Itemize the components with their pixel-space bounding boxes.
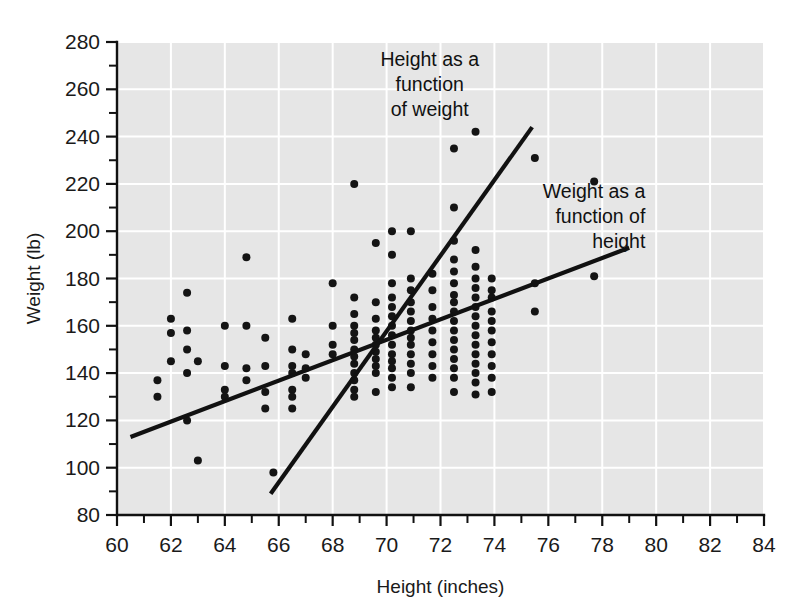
data-point: [407, 350, 415, 358]
data-point: [183, 345, 191, 353]
data-point: [450, 355, 458, 363]
data-point: [388, 364, 396, 372]
y-tick-label: 120: [65, 408, 100, 431]
scatter-chart: 60626466687072747678808284 8010012014016…: [0, 0, 806, 608]
x-tick-label: 74: [483, 533, 507, 556]
data-point: [388, 341, 396, 349]
data-point: [407, 308, 415, 316]
data-point: [472, 275, 480, 283]
x-tick-label: 62: [159, 533, 182, 556]
data-point: [288, 362, 296, 370]
data-point: [221, 362, 229, 370]
data-point: [194, 457, 202, 465]
x-tick-label: 82: [698, 533, 721, 556]
y-tick-label: 180: [65, 267, 100, 290]
data-point: [472, 369, 480, 377]
data-point: [407, 341, 415, 349]
data-point: [428, 350, 436, 358]
data-point: [288, 315, 296, 323]
data-point: [302, 374, 310, 382]
data-point: [488, 317, 496, 325]
data-point: [329, 279, 337, 287]
x-tick-label: 72: [429, 533, 452, 556]
data-point: [450, 345, 458, 353]
data-point: [531, 308, 539, 316]
data-point: [450, 327, 458, 335]
data-point: [488, 362, 496, 370]
data-point: [488, 338, 496, 346]
data-point: [450, 291, 458, 299]
data-point: [329, 322, 337, 330]
data-point: [472, 284, 480, 292]
data-point: [450, 279, 458, 287]
data-point: [407, 227, 415, 235]
data-point: [472, 263, 480, 271]
data-point: [242, 364, 250, 372]
data-point: [372, 369, 380, 377]
data-point: [450, 317, 458, 325]
y-tick-label: 240: [65, 125, 100, 148]
data-point: [450, 204, 458, 212]
x-tick-labels: 60626466687072747678808284: [105, 533, 776, 556]
y-tick-label: 280: [65, 30, 100, 53]
annotation-line: function of: [555, 205, 646, 227]
data-point: [242, 376, 250, 384]
data-point: [350, 393, 358, 401]
data-point: [488, 308, 496, 316]
data-point: [428, 374, 436, 382]
data-point: [472, 312, 480, 320]
data-point: [194, 357, 202, 365]
annotation-line: Height as a: [380, 48, 479, 70]
data-point: [388, 227, 396, 235]
data-point: [407, 317, 415, 325]
data-point: [407, 334, 415, 342]
data-point: [428, 338, 436, 346]
data-point: [450, 388, 458, 396]
data-point: [167, 329, 175, 337]
data-point: [183, 289, 191, 297]
data-point: [221, 322, 229, 330]
data-point: [472, 293, 480, 301]
data-point: [450, 336, 458, 344]
data-point: [488, 275, 496, 283]
data-point: [407, 275, 415, 283]
data-point: [372, 362, 380, 370]
x-tick-label: 60: [105, 533, 128, 556]
data-point: [167, 315, 175, 323]
data-point: [450, 298, 458, 306]
data-point: [261, 405, 269, 413]
data-point: [167, 357, 175, 365]
data-point: [472, 322, 480, 330]
data-point: [472, 341, 480, 349]
data-point: [450, 364, 458, 372]
data-point: [350, 386, 358, 394]
data-point: [302, 350, 310, 358]
x-tick-label: 80: [644, 533, 667, 556]
data-point: [329, 341, 337, 349]
data-point: [350, 310, 358, 318]
data-point: [261, 362, 269, 370]
data-point: [372, 298, 380, 306]
data-point: [472, 246, 480, 254]
data-point: [472, 390, 480, 398]
x-tick-label: 76: [537, 533, 560, 556]
data-point: [450, 267, 458, 275]
data-point: [450, 374, 458, 382]
y-tick-label: 100: [65, 456, 100, 479]
y-tick-label: 80: [77, 503, 100, 526]
data-point: [388, 279, 396, 287]
data-point: [183, 327, 191, 335]
data-point: [472, 350, 480, 358]
annotation-line: of weight: [391, 98, 470, 120]
data-point: [372, 388, 380, 396]
y-tick-label: 260: [65, 77, 100, 100]
x-tick-label: 64: [213, 533, 237, 556]
data-point: [372, 239, 380, 247]
data-point: [153, 376, 161, 384]
annotation-line: function: [396, 73, 464, 95]
data-point: [388, 303, 396, 311]
data-point: [372, 315, 380, 323]
x-tick-label: 70: [375, 533, 398, 556]
x-tick-label: 78: [591, 533, 614, 556]
data-point: [153, 393, 161, 401]
